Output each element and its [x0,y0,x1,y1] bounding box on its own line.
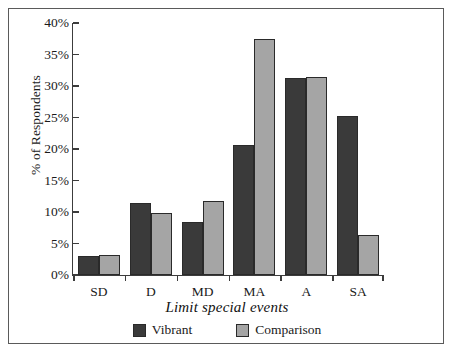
y-axis-tick-label: 40% [44,16,73,30]
y-axis-tick-label: 35% [44,47,73,61]
y-axis-tick-label: 20% [44,142,73,156]
y-axis-tick-label: 25% [44,110,73,124]
y-axis-tick-mark [73,22,79,24]
x-axis-tick-label: D [146,284,156,300]
x-axis-tick-mark [382,275,384,281]
bar [285,78,306,275]
x-axis-tick-mark [177,275,179,281]
bar [78,256,99,275]
bar [306,77,327,275]
y-axis-tick-mark [73,54,79,56]
bar [130,203,151,275]
bar [358,235,379,275]
legend-item: Vibrant [133,322,192,338]
bar [151,213,172,275]
bar [99,255,120,275]
bar [337,116,358,275]
x-axis-tick-mark [280,275,282,281]
x-axis-tick-label: SD [90,284,107,300]
x-axis-tick-label: A [301,284,311,300]
x-axis-tick-label: SA [349,284,366,300]
chart-figure: % of Respondents 0%5%10%15%20%25%30%35%4… [0,0,452,352]
y-axis-tick-mark [73,243,79,245]
x-axis-tick-mark [73,275,75,281]
y-axis-tick-label: 15% [44,173,73,187]
bar [233,145,254,275]
y-axis-tick-mark [73,85,79,87]
y-axis-tick-label: 0% [51,268,73,282]
legend-label: Comparison [255,322,321,338]
y-axis-tick-label: 5% [51,236,73,250]
x-axis-title: Limit special events [9,299,445,316]
chart-frame: % of Respondents 0%5%10%15%20%25%30%35%4… [8,8,444,344]
x-axis-tick-mark [125,275,127,281]
y-axis-tick-label: 30% [44,79,73,93]
x-axis-tick-mark [229,275,231,281]
legend-item: Comparison [236,322,321,338]
bar [203,201,224,275]
bar [254,39,275,275]
y-axis-title: % of Respondents [28,50,44,200]
legend-label: Vibrant [152,322,192,338]
x-axis-tick-mark [332,275,334,281]
chart-legend: VibrantComparison [9,322,445,338]
y-axis-tick-mark [73,180,79,182]
bar [182,222,203,275]
y-axis-tick-mark [73,148,79,150]
legend-swatch [133,324,146,337]
x-axis-tick-label: MA [244,284,266,300]
y-axis-tick-label: 10% [44,205,73,219]
y-axis-tick-mark [73,211,79,213]
legend-swatch [236,324,249,337]
plot-area: 0%5%10%15%20%25%30%35%40% SDDMDMAASA [72,23,384,276]
y-axis-tick-mark [73,117,79,119]
x-axis-tick-label: MD [192,284,214,300]
